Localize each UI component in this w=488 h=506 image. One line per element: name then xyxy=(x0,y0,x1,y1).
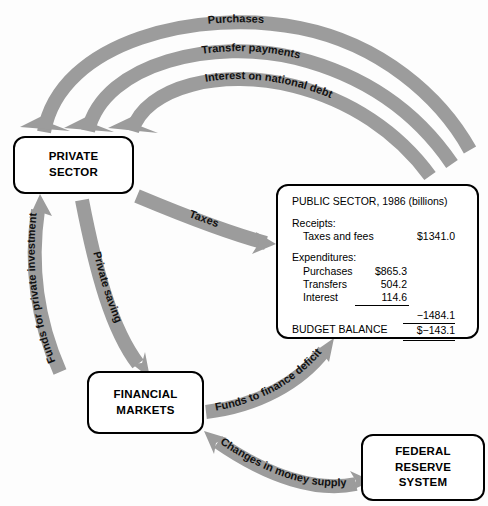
node-federal-reserve-label: FEDERAL RESERVE SYSTEM xyxy=(395,444,451,491)
expenditures-heading: Expenditures: xyxy=(292,251,467,264)
node-private-sector[interactable]: PRIVATE SECTOR xyxy=(13,136,134,194)
node-federal-reserve-system[interactable]: FEDERAL RESERVE SYSTEM xyxy=(361,434,485,501)
expenditure-label-interest: Interest xyxy=(292,291,338,306)
node-financial-markets[interactable]: FINANCIAL MARKETS xyxy=(87,371,204,434)
federal-reserve-line-2: RESERVE xyxy=(395,461,451,473)
financial-markets-line-2: MARKETS xyxy=(116,404,174,416)
flow-arrow-changes-in-money-supply: Changes in money supply xyxy=(204,431,372,491)
expenditure-label-purchases: Purchases xyxy=(292,265,353,278)
expenditure-row-transfers: Transfers 504.2 xyxy=(292,278,467,291)
public-sector-title: PUBLIC SECTOR, 1986 (billions) xyxy=(292,195,467,208)
private-sector-line-2: SECTOR xyxy=(49,166,98,178)
expenditure-amount-interest: 114.6 xyxy=(355,291,409,306)
federal-reserve-line-1: FEDERAL xyxy=(395,445,451,457)
node-financial-markets-label: FINANCIAL MARKETS xyxy=(114,387,178,418)
expenditures-total-amount: −1484.1 xyxy=(403,309,455,322)
budget-balance-label: BUDGET BALANCE xyxy=(292,323,388,336)
budget-balance-row: BUDGET BALANCE $−143.1 xyxy=(292,323,467,341)
flow-arrow-funds-for-private-investment: Funds for private investment xyxy=(25,194,60,372)
flow-arrow-private-saving: Private saving xyxy=(82,200,150,378)
expenditure-label-transfers: Transfers xyxy=(292,278,347,291)
expenditure-row-purchases: Purchases $865.3 xyxy=(292,265,467,278)
section-spacer xyxy=(292,243,467,251)
flow-arrow-funds-to-finance-deficit: Funds to finance deficit xyxy=(206,338,334,413)
expenditure-row-interest: Interest 114.6 xyxy=(292,291,467,306)
node-public-sector-budget[interactable]: PUBLIC SECTOR, 1986 (billions) Receipts:… xyxy=(276,184,479,339)
diagram-canvas: Purchases Transfer payments Interest on … xyxy=(0,0,488,506)
flow-label-funds-to-finance-deficit: Funds to finance deficit xyxy=(214,346,324,413)
flow-arrow-interest-on-national-debt: Interest on national debt xyxy=(108,69,430,176)
expenditures-total-row: −1484.1 xyxy=(292,309,467,322)
expenditure-amount-purchases: $865.3 xyxy=(355,265,409,278)
receipts-row-amount: $1341.0 xyxy=(403,230,467,243)
receipts-heading: Receipts: xyxy=(292,217,467,230)
flow-label-purchases: Purchases xyxy=(207,12,264,26)
financial-markets-line-1: FINANCIAL xyxy=(114,388,178,400)
receipts-row-label: Taxes and fees xyxy=(292,230,374,243)
node-private-sector-label: PRIVATE SECTOR xyxy=(49,149,99,180)
expenditure-amount-transfers: 504.2 xyxy=(355,278,409,291)
federal-reserve-line-3: SYSTEM xyxy=(399,476,448,488)
flow-arrow-taxes: Taxes xyxy=(137,196,276,254)
receipts-row: Taxes and fees $1341.0 xyxy=(292,230,467,243)
budget-balance-amount: $−143.1 xyxy=(403,323,455,341)
private-sector-line-1: PRIVATE xyxy=(49,150,99,162)
